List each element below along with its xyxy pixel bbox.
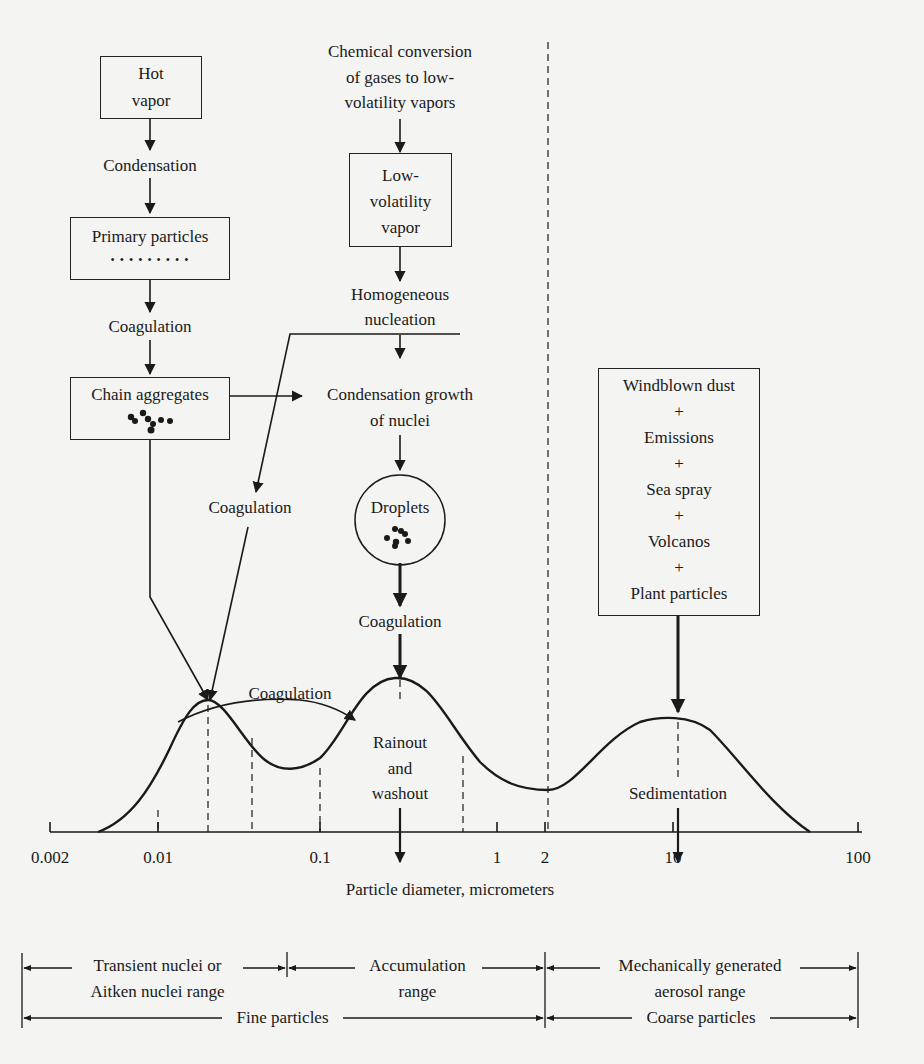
rainout-line2: and [350,759,450,779]
size-distribution-curve [98,678,810,832]
coagulation-mid-label: Coagulation [190,498,310,518]
tick-1: 1 [487,848,507,868]
tick-100: 100 [838,848,878,868]
sedimentation-label: Sedimentation [618,784,738,804]
fine-particles-label: Fine particles [222,1008,343,1028]
condensation-growth-line2: of nuclei [305,411,495,431]
tick-10: 10 [658,848,688,868]
mechanical-range-line2: aerosol range [600,982,800,1002]
coarse-particles-label: Coarse particles [632,1008,770,1028]
chemical-conversion-line1: Chemical conversion [310,42,490,62]
chemical-conversion-line3: volatility vapors [310,93,490,113]
source-volcanos: Volcanos [598,532,760,558]
chemical-conversion-line2: of gases to low- [310,68,490,88]
source-plant-particles: Plant particles [598,584,760,610]
tick-0.01: 0.01 [128,848,188,868]
accumulation-range-line2: range [355,982,480,1002]
primary-particles-label: Primary particles [70,227,230,247]
transient-range-line2: Aitken nuclei range [70,982,245,1002]
coagulation-left-label: Coagulation [80,317,220,337]
source-plus-4: + [598,558,760,584]
condensation-label: Condensation [70,156,230,176]
hot-vapor-line2: vapor [100,91,202,111]
accumulation-range-line1: Accumulation [355,956,480,976]
source-plus-3: + [598,506,760,532]
source-plus-1: + [598,402,760,428]
droplet-dots [384,526,411,549]
x-axis-label: Particle diameter, micrometers [300,880,600,900]
source-windblown-dust: Windblown dust [598,376,760,402]
mechanical-range-line1: Mechanically generated [600,956,800,976]
rainout-line3: washout [350,784,450,804]
rainout-line1: Rainout [350,733,450,753]
tick-0.002: 0.002 [20,848,80,868]
droplets-label: Droplets [355,498,445,518]
coagulation-curve-label: Coagulation [230,684,350,704]
primary-particles-dots: • • • • • • • • • [70,250,230,270]
tick-0.1: 0.1 [300,848,340,868]
coagulation-center-label: Coagulation [340,612,460,632]
transient-range-line1: Transient nuclei or [70,956,245,976]
homogeneous-nucleation-line2: nucleation [330,310,470,330]
coarse-sources-list: Windblown dust + Emissions + Sea spray +… [598,376,760,610]
low-volatility-line3: vapor [349,218,452,238]
droplets-circle [355,475,445,565]
source-emissions: Emissions [598,428,760,454]
source-sea-spray: Sea spray [598,480,760,506]
homogeneous-nucleation-line1: Homogeneous [330,285,470,305]
hot-vapor-line1: Hot [100,64,202,84]
source-plus-2: + [598,454,760,480]
low-volatility-line2: volatility [349,192,452,212]
low-volatility-line1: Low- [349,166,452,186]
tick-2: 2 [535,848,555,868]
chain-aggregates-label: Chain aggregates [70,385,230,405]
condensation-growth-line1: Condensation growth [305,385,495,405]
